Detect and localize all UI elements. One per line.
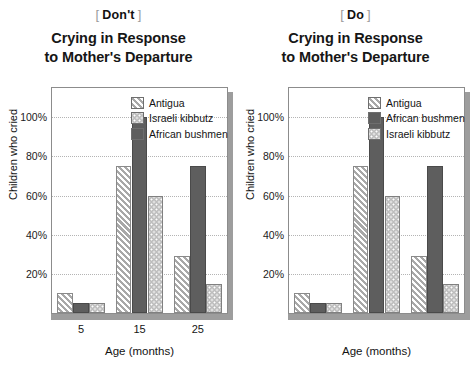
legend-swatch-icon — [131, 112, 144, 124]
bar — [443, 284, 459, 313]
chart-title: Crying in Response to Mother's Departure — [6, 29, 231, 66]
legend-swatch-icon — [368, 97, 381, 109]
legend-swatch-icon — [131, 128, 144, 140]
legend-item: African bushmen — [131, 127, 228, 140]
panel-do: [Do] Crying in Response to Mother's Depa… — [237, 0, 474, 378]
bar — [73, 303, 89, 313]
y-axis-label: Children who cried — [7, 109, 19, 200]
legend-item: African bushmen — [368, 112, 465, 125]
bar — [353, 166, 369, 313]
x-axis-band — [51, 314, 233, 320]
legend-swatch-icon — [368, 128, 381, 140]
bar — [132, 117, 148, 313]
bar — [116, 166, 132, 313]
bracket-close: ] — [138, 7, 142, 22]
bar — [310, 303, 326, 313]
legend-swatch-icon — [368, 112, 381, 124]
x-axis-tick-label: 5 — [78, 323, 84, 335]
bar — [411, 256, 427, 313]
plot-frame: 20%40%60%80%100% AntiguaAfrican bushmenI… — [288, 87, 465, 314]
legend-item: Antigua — [131, 96, 228, 109]
plot-frame: 20%40%60%80%100% AntiguaIsraeli kibbutzA… — [51, 87, 228, 314]
y-axis-tick-label: 60% — [263, 190, 284, 201]
chart-title-line2: to Mother's Departure — [243, 48, 468, 67]
bar — [190, 166, 206, 313]
x-axis-label: Age (months) — [288, 345, 465, 358]
legend-label: African bushmen — [149, 128, 228, 140]
bar — [427, 166, 443, 313]
y-axis-tick-label: 40% — [26, 229, 47, 240]
legend-label: African bushmen — [386, 112, 465, 124]
y-axis-tick-label: 80% — [26, 151, 47, 162]
legend-item: Antigua — [368, 96, 465, 109]
bar — [369, 117, 385, 313]
chart-title-line2: to Mother's Departure — [6, 48, 231, 67]
y-axis-tick-label: 100% — [20, 112, 47, 123]
x-axis-tick-label: 25 — [192, 323, 204, 335]
legend-item: Israeli kibbutz — [368, 127, 465, 140]
figure-container: [Don't] Crying in Response to Mother's D… — [0, 0, 474, 378]
chart-title-line1: Crying in Response — [51, 30, 185, 46]
bar — [326, 303, 342, 313]
bar — [148, 196, 164, 313]
y-axis-tick-label: 20% — [263, 268, 284, 279]
bar — [89, 303, 105, 313]
bar — [174, 256, 190, 313]
bar — [385, 196, 401, 313]
legend-label: Israeli kibbutz — [386, 128, 450, 140]
bar — [294, 293, 310, 313]
legend-swatch-icon — [131, 97, 144, 109]
x-axis-band — [288, 314, 470, 320]
y-axis-tick-label: 40% — [263, 229, 284, 240]
bar — [57, 293, 73, 313]
y-axis-tick-label: 80% — [263, 151, 284, 162]
x-axis-label: Age (months) — [51, 345, 228, 358]
x-axis-tick-label: 15 — [133, 323, 145, 335]
y-axis-tick-label: 20% — [26, 268, 47, 279]
y-axis-label: Children who cried — [244, 109, 256, 200]
panel-tag-do: [Do] — [237, 7, 474, 23]
tag-word: Do — [344, 8, 367, 22]
panel-tag-dont: [Don't] — [0, 7, 237, 23]
panel-dont: [Don't] Crying in Response to Mother's D… — [0, 0, 237, 378]
legend: AntiguaIsraeli kibbutzAfrican bushmen — [131, 96, 228, 140]
chart-title-line1: Crying in Response — [288, 30, 422, 46]
y-axis-tick-label: 100% — [257, 112, 284, 123]
legend-label: Antigua — [386, 97, 422, 109]
chart-title: Crying in Response to Mother's Departure — [243, 29, 468, 66]
bar — [206, 284, 222, 313]
tag-word: Don't — [99, 8, 137, 22]
bracket-close: ] — [367, 7, 371, 22]
y-axis-tick-label: 60% — [26, 190, 47, 201]
legend: AntiguaAfrican bushmenIsraeli kibbutz — [368, 96, 465, 140]
legend-item: Israeli kibbutz — [131, 112, 228, 125]
legend-label: Antigua — [149, 97, 185, 109]
legend-label: Israeli kibbutz — [149, 112, 213, 124]
